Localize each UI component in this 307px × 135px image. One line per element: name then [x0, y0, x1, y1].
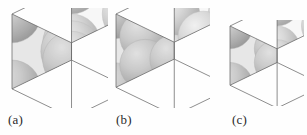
unit-cell-svg [224, 20, 304, 106]
cube-body [224, 20, 304, 106]
unit-cell-a [6, 8, 108, 108]
unit-cell-svg [6, 8, 108, 108]
atom-sphere [301, 62, 304, 106]
unit-cell-c [224, 20, 304, 106]
panel-label-b: (b) [116, 112, 132, 128]
panel-label-a: (a) [8, 112, 23, 128]
cube-body [110, 8, 210, 108]
atom-sphere [178, 39, 210, 90]
unit-cell-svg [110, 8, 210, 108]
unit-cell-figure: (a)(b)(c) [0, 0, 307, 135]
panel-label-c: (c) [232, 112, 247, 128]
unit-cell-b [110, 8, 210, 108]
atom-sphere [208, 63, 210, 108]
